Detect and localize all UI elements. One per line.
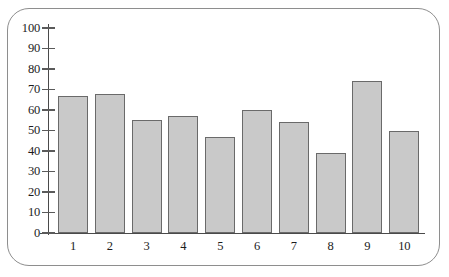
bar [168, 116, 198, 233]
bar [205, 137, 235, 233]
x-axis-tick-label: 5 [205, 240, 235, 253]
x-axis-tick-label: 3 [132, 240, 162, 253]
x-axis-tick-label: 4 [168, 240, 198, 253]
x-axis-tick-label: 8 [316, 240, 346, 253]
bar-chart-plot-area: 0102030405060708090100 12345678910 [0, 0, 449, 277]
bar [352, 81, 382, 233]
bar [389, 131, 419, 234]
x-axis-tick-label: 9 [352, 240, 382, 253]
bar [242, 110, 272, 233]
x-axis-tick-label: 2 [95, 240, 125, 253]
x-axis-tick-label: 7 [279, 240, 309, 253]
x-axis-tick-label: 1 [58, 240, 88, 253]
x-axis-tick-label: 6 [242, 240, 272, 253]
x-axis-tick-label: 10 [389, 240, 419, 253]
bar-series [0, 0, 449, 233]
bar [316, 153, 346, 233]
bar [58, 96, 88, 233]
bar [132, 120, 162, 233]
x-axis-line [40, 233, 425, 234]
bar [279, 122, 309, 233]
bar [95, 94, 125, 233]
